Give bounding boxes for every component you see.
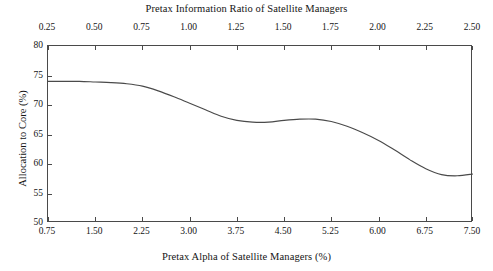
x-tick-label-bottom: 6.00 xyxy=(369,226,386,236)
series-line-allocation-to-core xyxy=(48,46,473,223)
x-tick-bottom xyxy=(331,217,332,221)
x-tick-top xyxy=(142,46,143,50)
y-tick-label: 70 xyxy=(21,99,43,109)
x-tick-top xyxy=(284,46,285,50)
x-tick-label-bottom: 7.50 xyxy=(464,226,481,236)
x-tick-label-bottom: 4.50 xyxy=(275,226,292,236)
y-tick-label: 50 xyxy=(21,217,43,227)
x-tick-top xyxy=(331,46,332,50)
x-tick-top xyxy=(379,46,380,50)
x-tick-label-top: 1.75 xyxy=(322,22,339,32)
y-tick-label: 80 xyxy=(21,40,43,50)
x-tick-bottom xyxy=(190,217,191,221)
x-tick-label-bottom: 5.25 xyxy=(322,226,339,236)
x-tick-label-bottom: 2.25 xyxy=(133,226,150,236)
x-tick-label-bottom: 1.50 xyxy=(86,226,103,236)
x-tick-top xyxy=(95,46,96,50)
x-tick-bottom xyxy=(426,217,427,221)
line-path xyxy=(48,81,473,175)
x-tick-label-top: 0.50 xyxy=(86,22,103,32)
x-tick-bottom xyxy=(472,217,473,221)
x-axis-title: Pretax Alpha of Satellite Managers (%) xyxy=(0,251,493,262)
x-tick-top xyxy=(472,46,473,50)
x-tick-bottom xyxy=(142,217,143,221)
x-tick-bottom xyxy=(284,217,285,221)
x-tick-bottom xyxy=(379,217,380,221)
y-tick-label: 65 xyxy=(21,129,43,139)
y-tick xyxy=(48,105,52,106)
x-tick-label-bottom: 6.75 xyxy=(416,226,433,236)
x-tick-top xyxy=(48,46,49,50)
x-tick-label-top: 1.00 xyxy=(180,22,197,32)
x-tick-label-bottom: 0.75 xyxy=(39,226,56,236)
x-tick-label-top: 2.25 xyxy=(416,22,433,32)
y-tick xyxy=(48,135,52,136)
chart-figure: Pretax Information Ratio of Satellite Ma… xyxy=(0,0,493,271)
plot-area xyxy=(47,45,472,222)
x-tick-label-top: 1.50 xyxy=(275,22,292,32)
x-tick-top xyxy=(190,46,191,50)
x-tick-label-top: 1.25 xyxy=(228,22,245,32)
y-tick-label: 60 xyxy=(21,158,43,168)
x-tick-label-top: 0.25 xyxy=(39,22,56,32)
y-tick xyxy=(48,194,52,195)
x-tick-label-top: 0.75 xyxy=(133,22,150,32)
y-tick xyxy=(48,76,52,77)
x-tick-top xyxy=(426,46,427,50)
x-tick-label-top: 2.50 xyxy=(464,22,481,32)
x-tick-label-bottom: 3.75 xyxy=(228,226,245,236)
top-axis-title: Pretax Information Ratio of Satellite Ma… xyxy=(0,3,493,14)
y-tick xyxy=(48,164,52,165)
x-tick-label-top: 2.00 xyxy=(369,22,386,32)
x-tick-bottom xyxy=(48,217,49,221)
x-tick-top xyxy=(237,46,238,50)
x-tick-bottom xyxy=(237,217,238,221)
x-tick-bottom xyxy=(95,217,96,221)
x-tick-label-bottom: 3.00 xyxy=(180,226,197,236)
y-tick-label: 75 xyxy=(21,70,43,80)
y-tick-label: 55 xyxy=(21,188,43,198)
